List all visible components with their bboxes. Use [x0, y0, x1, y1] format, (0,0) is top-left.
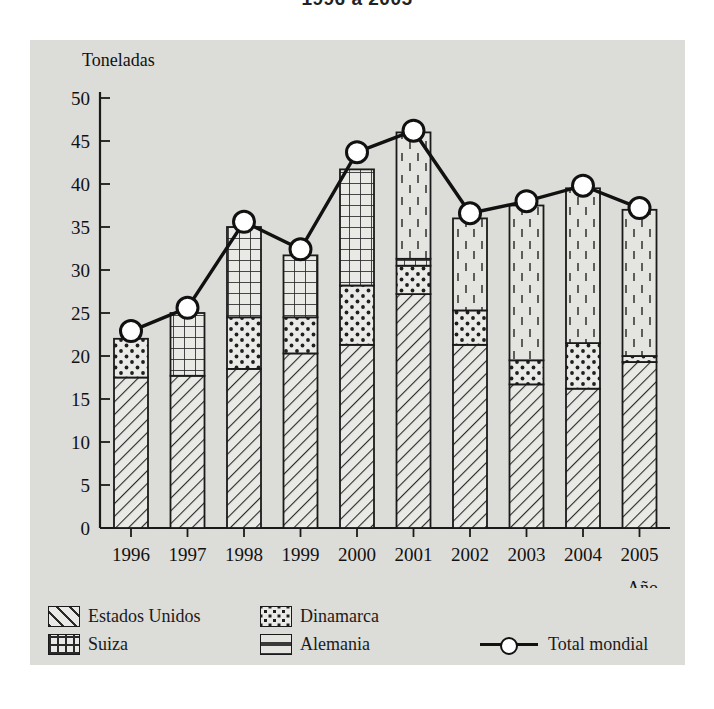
bar-segment [397, 259, 431, 266]
total-mondial-marker [121, 321, 142, 342]
bar-segment [566, 188, 600, 343]
x-tick-label: 1997 [169, 544, 207, 565]
legend-item-alemania[interactable]: Alemania [260, 634, 480, 655]
x-tick-label: 2000 [338, 544, 376, 565]
legend-item-total-mondial[interactable]: Total mondial [480, 634, 648, 655]
bar-segment [171, 313, 205, 376]
total-mondial-marker [516, 191, 537, 212]
legend-label-suiza: Suiza [88, 634, 128, 655]
bar-segment [114, 378, 148, 529]
bar-segment [340, 285, 374, 344]
legend-item-dinamarca[interactable]: Dinamarca [260, 606, 480, 627]
y-tick-label: 30 [71, 260, 90, 281]
y-tick-label: 35 [71, 217, 90, 238]
total-mondial-marker [234, 211, 255, 232]
y-tick-label: 15 [71, 389, 90, 410]
total-mondial-marker [290, 239, 311, 260]
bar-segment [623, 210, 657, 356]
legend-label-dinamarca: Dinamarca [300, 606, 379, 627]
legend-label-total-mondial: Total mondial [548, 634, 648, 655]
legend-row-1: Estados Unidos Dinamarca [48, 602, 668, 630]
y-tick-label: 25 [71, 303, 90, 324]
x-tick-label: 2003 [508, 544, 546, 565]
y-tick-label: 40 [71, 174, 90, 195]
x-tick-label: 2004 [564, 544, 603, 565]
total-mondial-marker [177, 297, 198, 318]
y-tick-label: 0 [81, 518, 91, 539]
page-title: 1996 a 2005 [0, 0, 714, 6]
bar-segment [340, 169, 374, 285]
x-tick-label: 2002 [451, 544, 489, 565]
y-tick-label: 50 [71, 88, 90, 109]
swatch-estados-unidos-icon [48, 606, 80, 627]
bar-segment [284, 353, 318, 528]
y-tick-label: 45 [71, 131, 90, 152]
x-axis-label: Año [627, 578, 658, 588]
swatch-dinamarca-icon [260, 606, 292, 627]
bar-segment [453, 310, 487, 344]
total-mondial-marker [573, 175, 594, 196]
legend-row-2: Suiza Alemania Total mondial [48, 630, 668, 658]
x-tick-label: 2001 [395, 544, 433, 565]
bar-segment [566, 389, 600, 528]
chart-panel: Toneladas0510152025303540455019961997199… [30, 40, 685, 665]
bar-segment [227, 317, 261, 369]
x-tick-label: 2005 [621, 544, 659, 565]
y-tick-label: 5 [81, 475, 91, 496]
bar-segment [284, 255, 318, 317]
bar-segment [510, 206, 544, 361]
total-mondial-marker [629, 198, 650, 219]
bar-segment [114, 339, 148, 378]
bar-segment [623, 362, 657, 528]
total-mondial-marker [347, 142, 368, 163]
y-tick-label: 20 [71, 346, 90, 367]
total-mondial-line [131, 131, 640, 331]
bar-segment [453, 345, 487, 528]
x-tick-label: 1999 [282, 544, 320, 565]
bar-segment [397, 294, 431, 528]
legend-label-alemania: Alemania [300, 634, 370, 655]
bar-segment [510, 384, 544, 528]
total-mondial-marker [460, 203, 481, 224]
plot-area: Toneladas0510152025303540455019961997199… [30, 40, 685, 588]
chart-svg: Toneladas0510152025303540455019961997199… [30, 40, 685, 588]
legend-label-estados-unidos: Estados Unidos [88, 606, 201, 627]
y-axis-label: Toneladas [82, 50, 155, 70]
bar-segment [340, 345, 374, 528]
bar-segment [397, 132, 431, 258]
total-mondial-marker [403, 120, 424, 141]
bar-segment [566, 343, 600, 389]
bar-segment [510, 360, 544, 384]
bar-segment [397, 266, 431, 294]
line-marker-icon [480, 635, 538, 653]
bar-segment [227, 369, 261, 528]
swatch-suiza-icon [48, 634, 80, 655]
legend-item-suiza[interactable]: Suiza [48, 634, 260, 655]
bar-segment [171, 376, 205, 528]
bar-segment [623, 356, 657, 362]
y-tick-label: 10 [71, 432, 90, 453]
legend-item-estados-unidos[interactable]: Estados Unidos [48, 606, 260, 627]
chart-legend: Estados Unidos Dinamarca Suiza Alemania … [48, 602, 668, 660]
x-tick-label: 1996 [112, 544, 150, 565]
bar-segment [453, 218, 487, 310]
bar-segment [284, 317, 318, 353]
swatch-alemania-icon [260, 634, 292, 655]
x-tick-label: 1998 [225, 544, 263, 565]
